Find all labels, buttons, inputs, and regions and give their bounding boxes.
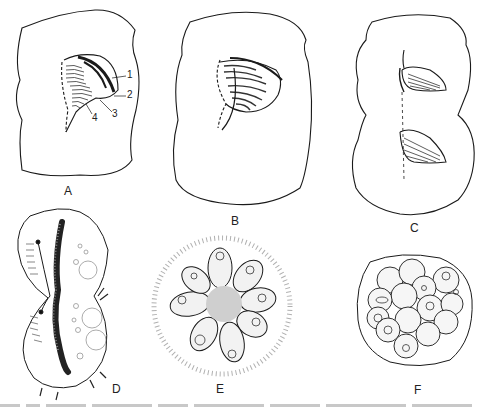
annotation-1: 1 [127,69,133,80]
figure-caption-cropped [0,404,487,411]
panel-c-drawing [352,15,474,215]
annotation-3: 3 [112,108,118,119]
panel-label-c: C [410,221,419,235]
figure-plate: 1 2 3 4 A B C D E F [0,0,487,411]
figure-drawings [0,0,487,411]
panel-b-drawing [173,12,311,204]
panel-f-drawing [357,255,472,366]
panel-label-d: D [112,382,121,396]
annotation-4: 4 [92,112,98,123]
annotation-2: 2 [127,89,133,100]
panel-d-drawing [18,209,108,400]
panel-label-a: A [64,184,72,198]
panel-label-b: B [231,214,239,228]
panel-a-drawing [16,10,139,176]
panel-label-f: F [414,383,421,397]
panel-label-e: E [216,382,224,396]
panel-e-drawing [154,238,290,374]
